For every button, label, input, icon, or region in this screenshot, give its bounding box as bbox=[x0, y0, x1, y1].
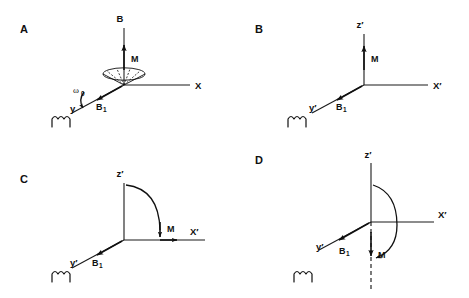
panel-a-cone-radial-1 bbox=[107, 71, 124, 85]
panel-a-label-X: X bbox=[195, 80, 202, 91]
panel-a-label-B: B bbox=[117, 13, 124, 24]
panel-d: D z′ X′ y′ B 1 M bbox=[255, 149, 447, 290]
panel-a-label-y: y bbox=[70, 103, 76, 114]
panel-b-label-zprime: z′ bbox=[356, 19, 364, 30]
panel-c-rf-coil-icon bbox=[52, 272, 70, 283]
panel-a-letter: A bbox=[20, 23, 28, 35]
panel-c-flip-arc bbox=[126, 185, 160, 230]
panel-a-cone-side-left bbox=[103, 74, 124, 85]
panel-a-rf-coil-icon bbox=[52, 117, 70, 128]
panel-c-b1-arrow bbox=[97, 241, 122, 255]
panel-c-label-B1: B bbox=[92, 258, 99, 268]
panel-a: A B bbox=[20, 13, 202, 127]
panel-a-label-omega-sub: 0 bbox=[81, 90, 85, 97]
panel-b-rf-coil-icon bbox=[288, 117, 306, 128]
panel-d-rf-coil-icon bbox=[294, 272, 312, 283]
panel-d-label-M: M bbox=[378, 250, 386, 260]
panel-d-label-yprime: y′ bbox=[316, 241, 324, 252]
panel-a-label-B1-sub: 1 bbox=[103, 106, 107, 113]
panel-a-cone-side-right bbox=[124, 74, 145, 85]
panel-a-label-M: M bbox=[131, 54, 139, 64]
panel-c-label-yprime: y′ bbox=[70, 257, 78, 268]
panel-a-label-omega: ω bbox=[73, 85, 79, 95]
panel-a-b1-arrow bbox=[97, 86, 122, 100]
panel-d-b1-arrow bbox=[339, 223, 369, 240]
panel-c-letter: C bbox=[20, 173, 28, 185]
panel-c-label-B1-sub: 1 bbox=[99, 262, 103, 269]
panel-d-label-zprime: z′ bbox=[364, 149, 372, 160]
panel-b-label-yprime: y′ bbox=[309, 102, 317, 113]
nmr-magnetization-figure: A B bbox=[0, 0, 469, 298]
panel-d-label-B1-sub: 1 bbox=[346, 250, 350, 257]
panel-c: C z′ M X′ y′ B 1 bbox=[20, 168, 205, 282]
panel-b-label-B1: B bbox=[336, 102, 343, 112]
panel-b: B z′ M X′ y′ B 1 bbox=[255, 19, 442, 127]
panel-b-b1-arrow bbox=[337, 86, 362, 100]
panel-b-label-B1-sub: 1 bbox=[343, 106, 347, 113]
panel-c-label-Xprime: X′ bbox=[190, 226, 199, 237]
panel-c-label-zprime: z′ bbox=[116, 168, 124, 179]
panel-d-label-B1: B bbox=[339, 246, 346, 256]
panel-b-label-M: M bbox=[371, 54, 379, 64]
panel-b-label-Xprime: X′ bbox=[433, 80, 442, 91]
panel-b-letter: B bbox=[255, 23, 263, 35]
panel-d-letter: D bbox=[255, 154, 263, 166]
panel-d-label-Xprime: X′ bbox=[438, 209, 447, 220]
figure-root: A B bbox=[0, 0, 469, 298]
panel-a-label-B1: B bbox=[96, 102, 103, 112]
panel-c-label-M: M bbox=[167, 224, 175, 234]
